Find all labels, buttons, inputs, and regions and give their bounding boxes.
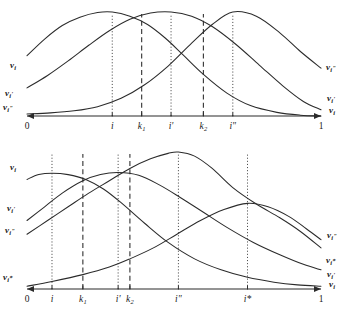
curve-label-left-0: vi bbox=[10, 162, 16, 173]
curve-label-right-2: vi bbox=[329, 105, 335, 116]
curve-label-left-1: vi' bbox=[7, 203, 15, 214]
top-axis-arrow-right bbox=[314, 113, 321, 119]
curve-vi bbox=[27, 12, 321, 114]
curve-label-right-0: vi" bbox=[326, 62, 336, 73]
tick-label-i: i bbox=[111, 121, 114, 131]
bottom-panel-curves bbox=[27, 152, 321, 286]
tick-label-0: 0 bbox=[25, 294, 30, 304]
curve-label-left-3: vi* bbox=[3, 272, 13, 283]
bottom-panel-left-labels: vivi'vi"vi* bbox=[3, 162, 16, 283]
bottom-axis-arrow-left bbox=[27, 286, 34, 292]
top-panel: 0ik1i'k2i"1 vivi'vi" vi"vi'vi bbox=[3, 12, 336, 133]
curve-vi bbox=[27, 173, 321, 286]
bottom-panel-right-labels: vi"vi*vi'vi bbox=[326, 230, 337, 290]
curve-label-left-2: vi" bbox=[5, 225, 15, 236]
tick-label-i: i' bbox=[169, 121, 175, 131]
tick-label-i: i' bbox=[116, 294, 122, 304]
curve-label-right-0: vi" bbox=[327, 230, 337, 241]
top-panel-curves bbox=[27, 12, 321, 116]
tick-label-1: 1 bbox=[319, 294, 324, 304]
bottom-panel: 0ik1i'k2i"i*1 vivi'vi"vi* vi"vi*vi'vi bbox=[3, 152, 337, 305]
curve-vi bbox=[27, 12, 321, 116]
top-panel-right-labels: vi"vi'vi bbox=[326, 62, 336, 116]
tick-label-0: 0 bbox=[25, 121, 30, 131]
tick-label-i: i* bbox=[244, 294, 252, 304]
tick-label-i: i" bbox=[175, 294, 183, 304]
tick-label-i: i" bbox=[229, 121, 237, 131]
tick-label-k2: k2 bbox=[200, 121, 209, 132]
top-panel-vertical-lines bbox=[112, 14, 233, 116]
top-panel-left-labels: vivi'vi" bbox=[3, 60, 16, 113]
tick-label-i: i bbox=[51, 294, 54, 304]
curve-label-left-0: vi bbox=[10, 60, 16, 71]
bottom-panel-tick-labels: 0ik1i'k2i"i*1 bbox=[25, 294, 324, 305]
figure-container: 0ik1i'k2i"1 vivi'vi" vi"vi'vi 0ik1i'k2i"… bbox=[0, 0, 348, 313]
curve-vi bbox=[27, 152, 321, 248]
tick-label-k1: k1 bbox=[138, 121, 146, 132]
top-panel-tick-labels: 0ik1i'k2i"1 bbox=[25, 121, 324, 132]
curve-label-right-3: vi bbox=[329, 279, 335, 290]
curve-label-right-1: vi' bbox=[327, 93, 335, 104]
curve-label-left-1: vi' bbox=[5, 88, 13, 99]
curve-label-right-1: vi* bbox=[326, 255, 336, 266]
tick-label-k1: k1 bbox=[79, 294, 87, 305]
curve-label-left-2: vi" bbox=[3, 102, 13, 113]
curve-vi bbox=[27, 173, 321, 270]
tick-label-1: 1 bbox=[319, 121, 324, 131]
tick-label-k2: k2 bbox=[126, 294, 135, 305]
bottom-axis-arrow-right bbox=[314, 286, 321, 292]
figure-svg: 0ik1i'k2i"1 vivi'vi" vi"vi'vi 0ik1i'k2i"… bbox=[0, 0, 348, 313]
